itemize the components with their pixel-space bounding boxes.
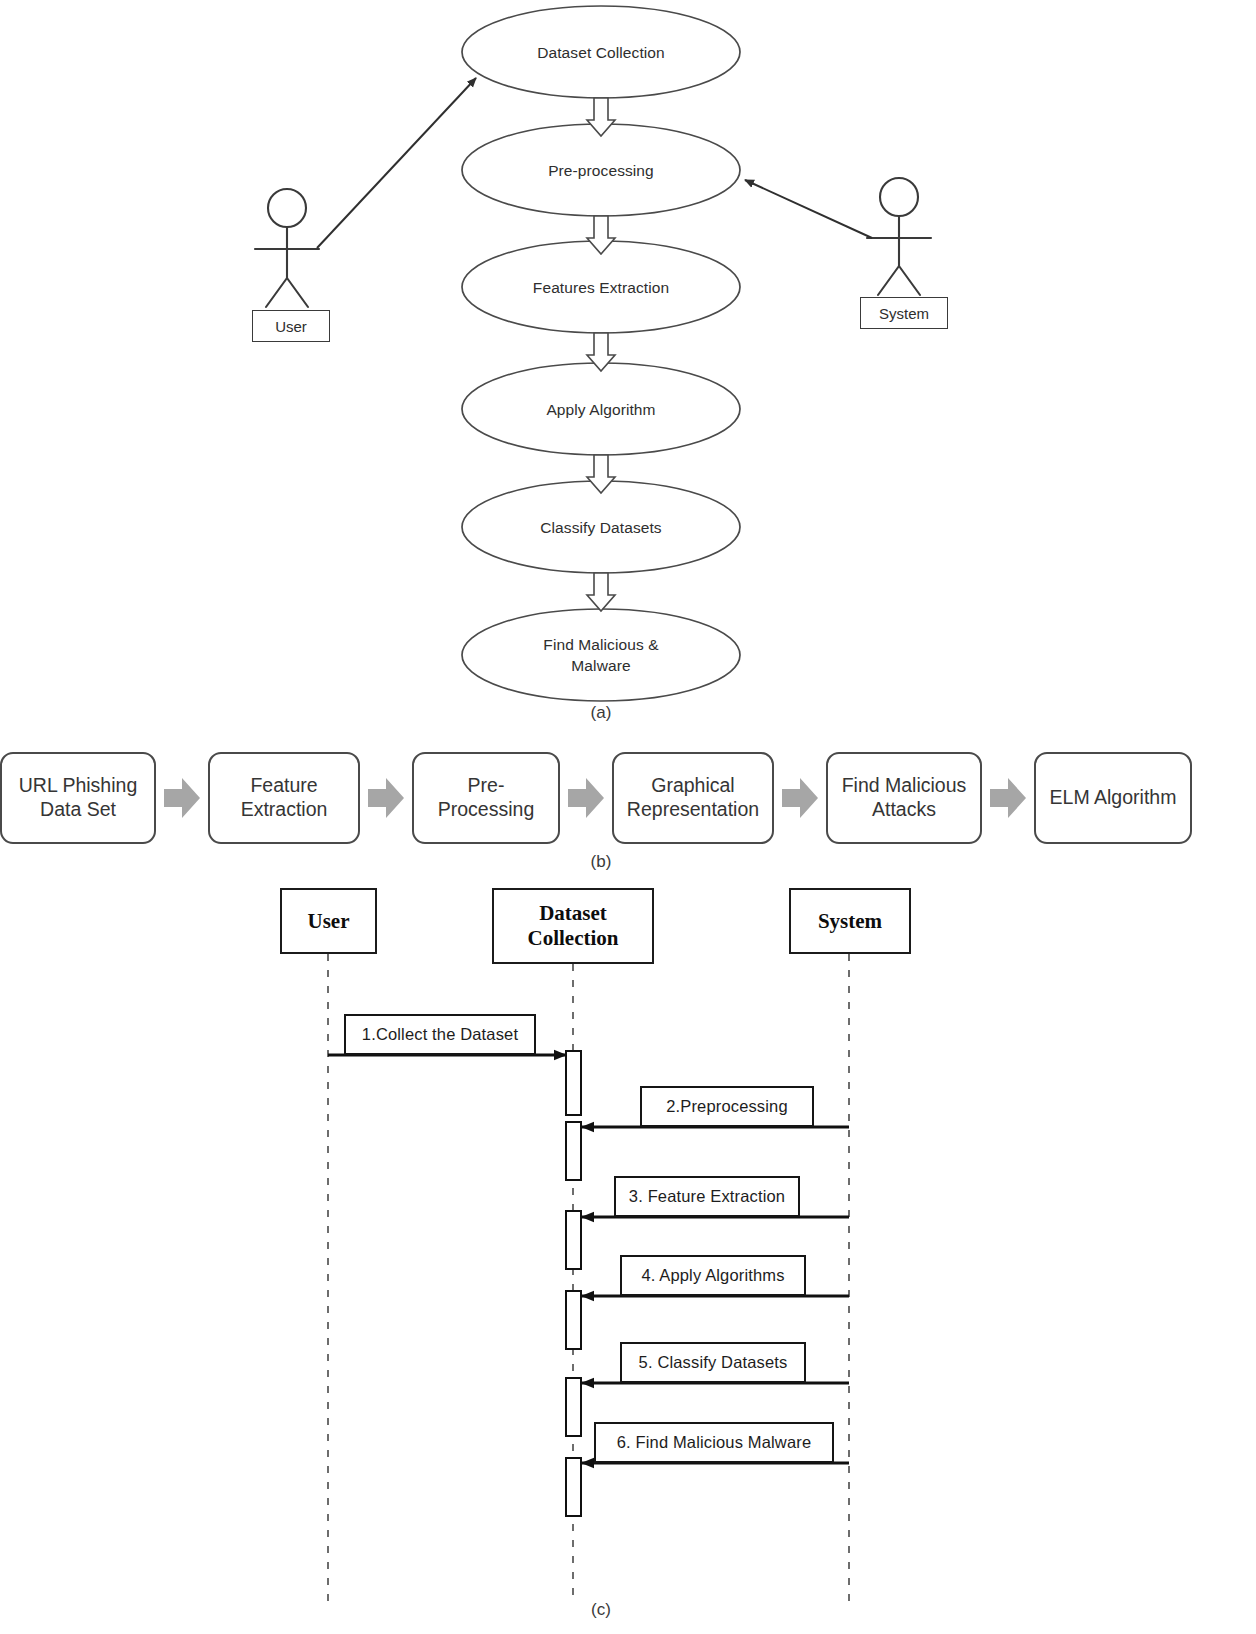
sequence-message-feature-extraction: 3. Feature Extraction — [614, 1176, 800, 1217]
actor-box-user: User — [252, 310, 330, 342]
usecase-label-classify-datasets: Classify Datasets — [471, 518, 731, 539]
sequence-message-preprocessing: 2.Preprocessing — [640, 1086, 814, 1127]
sequence-diagram: User Dataset Collection System 1.Collect… — [0, 862, 1256, 1634]
activation-bar-1 — [565, 1050, 582, 1116]
sequence-message-apply-algorithms: 4. Apply Algorithms — [620, 1255, 806, 1296]
usecase-label-apply-algorithm: Apply Algorithm — [471, 400, 731, 421]
activation-bar-3 — [565, 1210, 582, 1270]
activation-bar-5 — [565, 1377, 582, 1437]
pipeline-step-url-phishing-data-set: URL Phishing Data Set — [0, 752, 156, 844]
use-case-vector-layer — [0, 0, 1256, 735]
activation-bar-2 — [565, 1121, 582, 1181]
pipeline-step-elm-algorithm: ELM Algorithm — [1034, 752, 1192, 844]
pipeline-arrow-icon-3 — [567, 775, 605, 821]
usecase-label-dataset-collection: Dataset Collection — [471, 43, 731, 64]
pipeline-arrow-icon-4 — [781, 775, 819, 821]
activation-bar-4 — [565, 1290, 582, 1350]
sequence-message-classify-datasets: 5. Classify Datasets — [620, 1342, 806, 1383]
caption-c: (c) — [571, 1600, 631, 1620]
activation-bar-6 — [565, 1457, 582, 1517]
pipeline-arrow-icon-2 — [367, 775, 405, 821]
pipeline-step-find-malicious-attacks: Find Malicious Attacks — [826, 752, 982, 844]
pipeline-arrow-icon-5 — [989, 775, 1027, 821]
actor-box-system: System — [860, 297, 948, 329]
pipeline-step-graphical-representation: Graphical Representation — [612, 752, 774, 844]
pipeline-arrow-icon-1 — [163, 775, 201, 821]
sequence-vector-layer — [0, 862, 1256, 1634]
pipeline-step-pre-processing: Pre-Processing — [412, 752, 560, 844]
caption-a: (a) — [571, 703, 631, 723]
usecase-label-find-malicious-malware: Find Malicious & Malware — [471, 635, 731, 677]
lifeline-header-user: User — [280, 888, 377, 954]
use-case-diagram: Dataset Collection Pre-processing Featur… — [0, 0, 1256, 735]
usecase-label-features-extraction: Features Extraction — [471, 278, 731, 299]
pipeline-step-feature-extraction: Feature Extraction — [208, 752, 360, 844]
usecase-label-pre-processing: Pre-processing — [471, 161, 731, 182]
figure-page: Dataset Collection Pre-processing Featur… — [0, 0, 1256, 1634]
lifeline-header-system: System — [789, 888, 911, 954]
lifeline-header-dataset-collection: Dataset Collection — [492, 888, 654, 964]
sequence-message-collect-the-dataset: 1.Collect the Dataset — [344, 1014, 536, 1055]
process-pipeline: URL Phishing Data Set Feature Extraction… — [0, 745, 1256, 850]
sequence-message-find-malicious-malware: 6. Find Malicious Malware — [594, 1422, 834, 1463]
